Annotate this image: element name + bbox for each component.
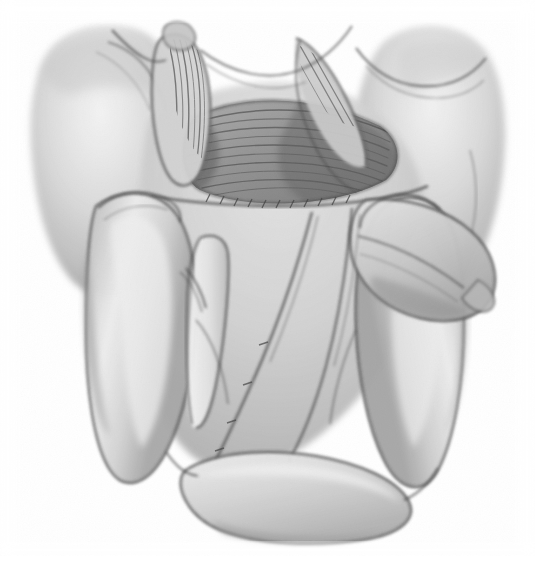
- figure-container: [0, 0, 535, 574]
- left-vignette: [0, 0, 16, 556]
- bottom-vignette: [0, 544, 535, 556]
- larynx-anatomical-illustration: [0, 0, 535, 556]
- top-vignette: [0, 0, 535, 18]
- paper-grain-overlay: [0, 0, 535, 556]
- right-vignette: [519, 0, 535, 556]
- figure-caption: [0, 562, 535, 574]
